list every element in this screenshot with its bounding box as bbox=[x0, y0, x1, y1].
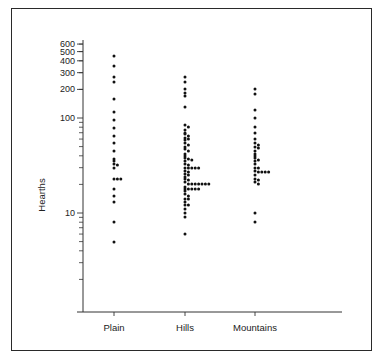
data-point-mountains bbox=[257, 159, 260, 162]
data-point-plain bbox=[113, 163, 116, 166]
data-point-hills bbox=[184, 88, 187, 91]
data-point-mountains bbox=[254, 157, 257, 160]
data-point-hills bbox=[184, 148, 187, 151]
data-point-hills bbox=[194, 188, 197, 191]
data-point-mountains bbox=[254, 132, 257, 135]
data-point-hills bbox=[184, 92, 187, 95]
data-point-hills bbox=[187, 198, 190, 201]
data-point-hills bbox=[184, 133, 187, 136]
data-point-mountains bbox=[254, 174, 257, 177]
axes: 60050040030020010010 bbox=[60, 39, 342, 316]
x-label-plain: Plain bbox=[103, 322, 124, 333]
data-point-mountains bbox=[254, 170, 257, 173]
data-point-hills bbox=[204, 183, 207, 186]
data-point-hills bbox=[184, 139, 187, 142]
y-tick-label: 200 bbox=[60, 84, 75, 94]
y-tick-label: 300 bbox=[60, 68, 75, 78]
data-point-mountains bbox=[254, 178, 257, 181]
data-point-plain bbox=[113, 150, 116, 153]
data-point-hills bbox=[184, 201, 187, 204]
data-point-hills bbox=[184, 178, 187, 181]
data-point-plain bbox=[113, 201, 116, 204]
data-point-plain bbox=[113, 111, 116, 114]
data-point-mountains bbox=[257, 147, 260, 150]
data-point-hills bbox=[184, 173, 187, 176]
data-point-hills bbox=[184, 198, 187, 201]
data-point-mountains bbox=[254, 150, 257, 153]
x-label-hills: Hills bbox=[176, 322, 194, 333]
data-point-mountains bbox=[254, 117, 257, 120]
data-point-hills bbox=[187, 188, 190, 191]
data-point-hills bbox=[184, 95, 187, 98]
data-point-mountains bbox=[254, 167, 257, 170]
data-point-hills bbox=[184, 129, 187, 132]
data-point-hills bbox=[184, 160, 187, 163]
data-point-plain bbox=[116, 164, 119, 167]
y-tick-label: 400 bbox=[60, 56, 75, 66]
data-point-mountains bbox=[254, 109, 257, 112]
data-point-hills bbox=[190, 183, 193, 186]
data-point-hills bbox=[190, 159, 193, 162]
data-point-plain bbox=[116, 178, 119, 181]
data-point-hills bbox=[184, 170, 187, 173]
data-point-plain bbox=[113, 119, 116, 122]
data-point-hills bbox=[184, 142, 187, 145]
data-point-hills bbox=[184, 233, 187, 236]
data-point-plain bbox=[113, 195, 116, 198]
data-point-hills bbox=[184, 167, 187, 170]
data-point-hills bbox=[187, 150, 190, 153]
data-point-hills bbox=[184, 193, 187, 196]
data-point-hills bbox=[184, 76, 187, 79]
data-point-mountains bbox=[260, 171, 263, 174]
data-point-mountains bbox=[267, 171, 270, 174]
data-point-plain bbox=[113, 65, 116, 68]
data-point-hills bbox=[207, 183, 210, 186]
data-point-hills bbox=[187, 138, 190, 141]
data-point-plain bbox=[113, 76, 116, 79]
data-point-mountains bbox=[254, 93, 257, 96]
data-point-mountains bbox=[257, 144, 260, 147]
data-point-mountains bbox=[257, 171, 260, 174]
data-point-mountains bbox=[254, 163, 257, 166]
data-point-mountains bbox=[254, 142, 257, 145]
data-point-hills bbox=[201, 183, 204, 186]
dot-plot: 60050040030020010010 Hearths Plain Hills… bbox=[0, 0, 381, 360]
data-point-mountains bbox=[254, 160, 257, 163]
data-point-plain bbox=[113, 160, 116, 163]
data-point-plain bbox=[113, 127, 116, 130]
data-point-hills bbox=[184, 163, 187, 166]
data-point-hills bbox=[187, 144, 190, 147]
y-tick-label: 10 bbox=[65, 208, 75, 218]
data-point-plain bbox=[113, 241, 116, 244]
data-point-hills bbox=[184, 208, 187, 211]
data-point-hills bbox=[184, 204, 187, 207]
data-point-mountains bbox=[257, 183, 260, 186]
data-point-hills bbox=[184, 81, 187, 84]
data-point-mountains bbox=[254, 126, 257, 129]
data-point-hills bbox=[184, 124, 187, 127]
data-points bbox=[113, 55, 271, 244]
data-point-plain bbox=[113, 221, 116, 224]
data-point-hills bbox=[187, 167, 190, 170]
data-point-hills bbox=[190, 188, 193, 191]
data-point-hills bbox=[197, 167, 200, 170]
x-label-mountains: Mountains bbox=[233, 322, 277, 333]
y-tick-label: 100 bbox=[60, 113, 75, 123]
data-point-mountains bbox=[254, 212, 257, 215]
data-point-hills bbox=[187, 158, 190, 161]
data-point-hills bbox=[187, 164, 190, 167]
data-point-hills bbox=[187, 135, 190, 138]
data-point-mountains bbox=[254, 88, 257, 91]
data-point-mountains bbox=[257, 179, 260, 182]
data-point-plain bbox=[119, 178, 122, 181]
data-point-mountains bbox=[264, 171, 267, 174]
data-point-plain bbox=[113, 142, 116, 145]
data-point-hills bbox=[194, 183, 197, 186]
data-point-hills bbox=[184, 216, 187, 219]
data-point-plain bbox=[113, 55, 116, 58]
y-axis-title: Hearths bbox=[36, 178, 47, 212]
data-point-plain bbox=[113, 188, 116, 191]
data-point-hills bbox=[197, 188, 200, 191]
data-point-mountains bbox=[257, 167, 260, 170]
data-point-hills bbox=[184, 190, 187, 193]
